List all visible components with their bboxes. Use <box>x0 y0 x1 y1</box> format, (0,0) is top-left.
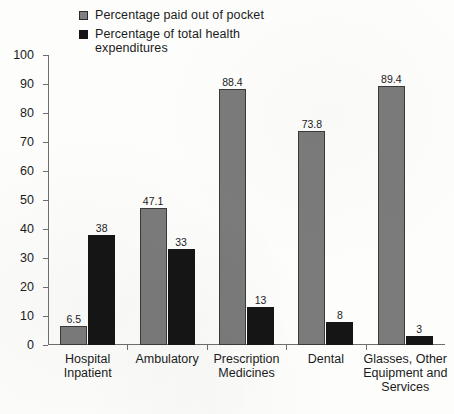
bar-value-label: 73.8 <box>302 118 322 130</box>
bar-value-label: 88.4 <box>222 76 242 88</box>
y-axis-tick-label: 60 <box>20 164 34 178</box>
y-axis-tick-label: 100 <box>13 48 34 62</box>
legend-entry: Percentage of total health expenditures <box>79 27 329 56</box>
y-axis-tick-label: 30 <box>20 251 34 265</box>
bar-value-label: 33 <box>175 236 187 248</box>
bar: 89.4 <box>378 86 405 345</box>
y-axis-tick-label: 40 <box>20 222 34 236</box>
legend-label: Percentage of total health expenditures <box>95 27 283 56</box>
y-axis-tick-label: 80 <box>20 106 34 120</box>
x-axis-tick <box>366 345 367 350</box>
y-axis-tick-label: 70 <box>20 135 34 149</box>
bar-value-label: 38 <box>96 222 108 234</box>
bar: 73.8 <box>298 131 325 345</box>
bar-group: 88.413 <box>207 55 286 345</box>
y-axis-tick-label: 20 <box>20 280 34 294</box>
category-label: Prescription Medicines <box>201 352 293 380</box>
bar: 8 <box>326 322 353 345</box>
x-axis-tick <box>207 345 208 350</box>
chart-legend: Percentage paid out of pocketPercentage … <box>79 8 329 60</box>
bar: 47.1 <box>140 208 167 345</box>
bar: 88.4 <box>219 89 246 345</box>
bar-group: 73.88 <box>286 55 365 345</box>
y-axis-tick-label: 90 <box>20 77 34 91</box>
bar: 38 <box>88 235 115 345</box>
category-label: Glasses, Other Equipment and Services <box>355 352 454 394</box>
bar-group: 89.43 <box>366 55 445 345</box>
y-axis-tick: 0 <box>43 345 48 346</box>
x-axis-tick <box>286 345 287 350</box>
bar-value-label: 89.4 <box>381 73 401 85</box>
bar-value-label: 8 <box>337 309 343 321</box>
category-label: Dental <box>291 352 361 366</box>
plot-area: 0102030405060708090100 6.53847.13388.413… <box>48 55 445 345</box>
bar-group: 6.538 <box>48 55 127 345</box>
y-axis-tick-label: 0 <box>27 338 34 352</box>
legend-label: Percentage paid out of pocket <box>95 8 264 23</box>
bar-group: 47.133 <box>127 55 206 345</box>
category-label: Ambulatory <box>122 352 212 366</box>
bar: 33 <box>168 249 195 345</box>
x-axis-tick <box>127 345 128 350</box>
bar-value-label: 47.1 <box>143 195 163 207</box>
legend-entry: Percentage paid out of pocket <box>79 8 329 23</box>
bar-value-label: 13 <box>255 294 267 306</box>
legend-swatch-icon <box>79 11 88 20</box>
bar: 13 <box>247 307 274 345</box>
bar-value-label: 3 <box>416 323 422 335</box>
bar-chart: Percentage paid out of pocketPercentage … <box>0 0 454 414</box>
bar: 6.5 <box>60 326 87 345</box>
y-axis-tick-label: 50 <box>20 193 34 207</box>
y-axis-tick-label: 10 <box>20 309 34 323</box>
bar: 3 <box>406 336 433 345</box>
bar-value-label: 6.5 <box>66 313 81 325</box>
category-label: Hospital Inpatient <box>49 352 127 380</box>
legend-swatch-icon <box>79 30 88 39</box>
